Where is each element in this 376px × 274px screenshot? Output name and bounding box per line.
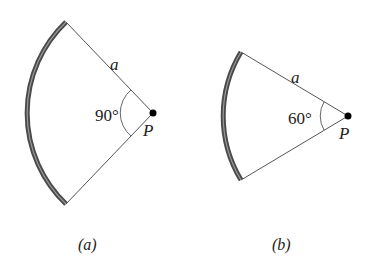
caption-b: (b): [272, 236, 291, 254]
radius-line-bottom-a: [66, 113, 153, 204]
figure-a: a 90° P (a): [27, 22, 156, 254]
rod-highlight-b: [223, 52, 241, 180]
angle-label-a: 90°: [95, 106, 119, 125]
point-label-a: P: [142, 121, 153, 140]
radius-label-b: a: [291, 68, 300, 87]
charged-rod-arc-a: [27, 22, 66, 204]
angle-label-b: 60°: [288, 109, 312, 128]
angle-arc-a: [120, 90, 131, 136]
figure-b: a 60° P (b): [223, 52, 351, 254]
point-p-b: [345, 113, 352, 120]
radius-label-a: a: [110, 55, 119, 74]
figure-canvas: a 90° P (a) a 60° P (b): [0, 0, 376, 274]
caption-a: (a): [78, 236, 97, 254]
angle-arc-b: [320, 102, 324, 130]
point-p-a: [150, 110, 157, 117]
point-label-b: P: [338, 124, 349, 143]
